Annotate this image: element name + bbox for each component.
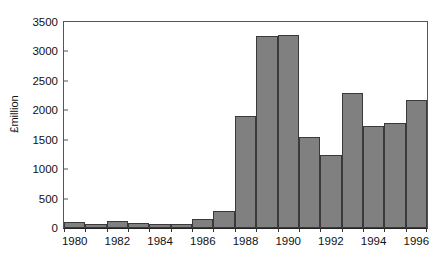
x-axis-tick-mark xyxy=(64,228,65,232)
y-axis-tick-mark xyxy=(64,198,68,199)
x-axis-tick-label: 1980 xyxy=(62,235,88,247)
x-axis-tick-label: 1984 xyxy=(147,235,173,247)
y-axis-tick-label: 1500 xyxy=(32,134,64,146)
x-axis-tick-label: 1986 xyxy=(190,235,216,247)
y-axis-title: £million xyxy=(8,74,20,154)
y-axis-tick-label: 3000 xyxy=(32,45,64,57)
bar xyxy=(213,211,234,228)
x-axis-tick-mark xyxy=(384,228,385,232)
bar xyxy=(299,137,320,228)
y-axis-tick-label: 2000 xyxy=(32,104,64,116)
x-axis-tick-mark xyxy=(299,228,300,232)
y-axis-tick-mark xyxy=(64,110,68,111)
bar xyxy=(363,126,384,228)
y-axis-tick-mark xyxy=(64,80,68,81)
x-axis-tick-mark xyxy=(406,228,407,232)
bar xyxy=(149,224,170,228)
bar xyxy=(85,224,106,228)
x-axis-tick-mark xyxy=(171,228,172,232)
bar xyxy=(171,224,192,228)
x-axis-tick-mark xyxy=(363,228,364,232)
x-axis-tick-mark xyxy=(342,228,343,232)
y-axis-tick-label: 2500 xyxy=(32,75,64,87)
x-axis-tick-mark xyxy=(107,228,108,232)
bar xyxy=(256,36,277,228)
bar-chart: £million 0500100015002000250030003500198… xyxy=(0,0,447,269)
x-axis-tick-mark xyxy=(235,228,236,232)
y-axis-tick-mark xyxy=(64,139,68,140)
y-axis-tick-label: 500 xyxy=(39,193,64,205)
x-axis-tick-mark xyxy=(192,228,193,232)
x-axis-tick-mark xyxy=(426,228,427,232)
bar xyxy=(384,123,405,228)
x-axis-tick-mark xyxy=(128,228,129,232)
x-axis-tick-label: 1988 xyxy=(233,235,259,247)
bar xyxy=(192,219,213,228)
bar xyxy=(278,35,299,228)
y-axis-tick-mark xyxy=(64,51,68,52)
bar xyxy=(342,93,363,228)
x-axis-tick-label: 1982 xyxy=(105,235,131,247)
x-axis-tick-label: 1994 xyxy=(361,235,387,247)
bar xyxy=(107,221,128,228)
bar xyxy=(320,155,341,228)
bar xyxy=(64,222,85,228)
y-axis-tick-mark xyxy=(64,169,68,170)
y-axis-tick-label: 3500 xyxy=(32,16,64,28)
y-axis-tick-label: 1000 xyxy=(32,163,64,175)
x-axis-tick-label: 1992 xyxy=(318,235,344,247)
x-axis-tick-mark xyxy=(278,228,279,232)
x-axis-tick-mark xyxy=(256,228,257,232)
y-axis-tick-label: 0 xyxy=(52,222,64,234)
x-axis-tick-label: 1996 xyxy=(404,235,430,247)
x-axis-tick-mark xyxy=(85,228,86,232)
plot-area: 0500100015002000250030003500198019821984… xyxy=(63,21,428,229)
bar xyxy=(406,100,427,228)
bar xyxy=(235,116,256,228)
bars-layer xyxy=(64,22,427,228)
bar xyxy=(128,223,149,228)
x-axis-tick-mark xyxy=(149,228,150,232)
x-axis-tick-mark xyxy=(213,228,214,232)
x-axis-tick-label: 1990 xyxy=(275,235,301,247)
x-axis-tick-mark xyxy=(320,228,321,232)
